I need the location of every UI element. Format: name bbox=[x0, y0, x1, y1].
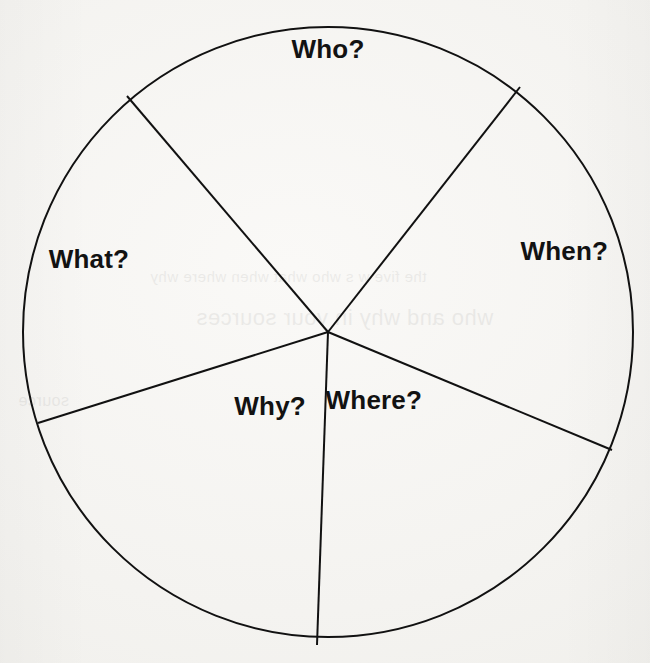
sector-divider-upper-right bbox=[328, 87, 520, 332]
sector-divider-upper-left bbox=[127, 96, 328, 332]
sector-label-where: Where? bbox=[326, 387, 423, 413]
sector-divider-bottom bbox=[317, 332, 328, 645]
five-ws-circle-diagram bbox=[0, 0, 650, 663]
sector-label-who: Who? bbox=[292, 36, 365, 62]
sector-label-what: What? bbox=[49, 246, 129, 272]
sector-divider-group bbox=[38, 87, 612, 645]
sector-label-why: Why? bbox=[234, 393, 306, 419]
sector-label-when: When? bbox=[521, 238, 609, 264]
